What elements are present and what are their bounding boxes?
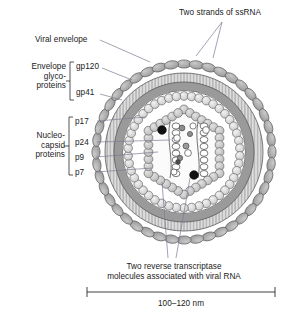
rna-nucleoprotein-bead xyxy=(200,143,208,149)
p17-matrix-bead xyxy=(124,144,133,153)
label-scale: 100–120 nm xyxy=(131,299,231,309)
leader-line xyxy=(196,22,222,58)
core-protein-dot xyxy=(203,127,210,134)
p17-matrix-bead xyxy=(165,94,174,103)
core-protein-dot xyxy=(179,125,185,131)
core-protein-dot xyxy=(187,131,192,136)
label-gp120: gp120 xyxy=(76,62,99,72)
reverse-transcriptase-molecule xyxy=(190,171,199,180)
label-reverse-transcriptase-line1: Two reverse transcriptase xyxy=(74,262,274,272)
rna-nucleoprotein-bead xyxy=(200,137,208,143)
p17-matrix-bead xyxy=(195,202,204,211)
p24-capsid-bead xyxy=(174,109,183,118)
label-envelope-glycoproteins: Envelope glyco- proteins xyxy=(2,62,66,91)
leader-line xyxy=(102,68,132,80)
label-p9: p9 xyxy=(75,153,84,163)
label-p7: p7 xyxy=(75,168,84,178)
envelope-bracket xyxy=(70,62,74,100)
core-protein-dot xyxy=(183,143,189,149)
label-p17: p17 xyxy=(75,117,89,127)
scale-bar xyxy=(87,287,275,297)
label-p24: p24 xyxy=(75,138,89,148)
rna-nucleoprotein-bead xyxy=(172,123,180,129)
p17-matrix-bead xyxy=(187,92,196,101)
core-protein-dot xyxy=(185,150,192,157)
core-protein-dot xyxy=(174,135,181,142)
rna-nucleoprotein-bead xyxy=(200,164,208,170)
label-gp41: gp41 xyxy=(76,88,94,98)
label-viral-envelope: Viral envelope xyxy=(35,35,87,45)
rna-nucleoprotein-bead xyxy=(200,150,208,156)
label-nucleocapsid-proteins: Nucleo- capsid proteins xyxy=(2,131,65,160)
label-two-strands-ssrna: Two strands of ssRNA xyxy=(150,8,290,18)
p17-matrix-bead xyxy=(125,159,134,168)
core-protein-dot xyxy=(176,160,181,165)
rna-nucleoprotein-bead xyxy=(172,143,180,149)
virion-body xyxy=(92,60,276,244)
p17-matrix-bead xyxy=(235,136,244,145)
p17-matrix-bead xyxy=(172,92,181,101)
core-protein-dot xyxy=(171,169,177,175)
nucleocapsid-bracket xyxy=(69,117,73,175)
leader-line xyxy=(100,40,150,62)
reverse-transcriptase-molecule xyxy=(158,126,167,135)
rna-nucleoprotein-bead xyxy=(200,157,208,163)
p17-matrix-bead xyxy=(172,203,181,212)
gp120-spike xyxy=(164,60,179,70)
label-reverse-transcriptase-line2: molecules associated with viral RNA xyxy=(54,272,294,282)
rna-nucleoprotein-bead xyxy=(200,171,208,177)
core-protein-dot xyxy=(190,123,196,129)
p17-matrix-bead xyxy=(236,152,245,161)
